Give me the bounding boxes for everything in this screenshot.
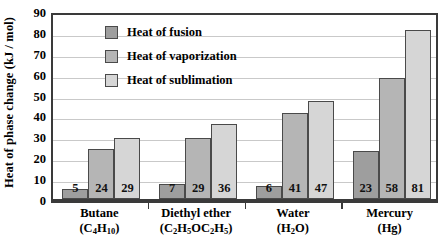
legend-swatch-icon <box>105 50 118 63</box>
bar-value-label: 58 <box>385 182 398 195</box>
x-axis-separator-tick <box>341 201 343 209</box>
bar-water-heat-of-sublimation: 47 <box>308 101 334 199</box>
y-axis-tick-40: 40 <box>34 110 47 125</box>
x-axis-separator-tick <box>148 201 150 209</box>
x-axis-label-formula: (Hg) <box>366 221 413 236</box>
y-axis-title-text: Heat of phase change (kJ / mol) <box>3 17 18 188</box>
y-axis-tick-50: 50 <box>34 89 47 104</box>
x-axis-label-water: Water(H2O) <box>276 206 309 237</box>
y-axis-tick-10: 10 <box>34 173 47 188</box>
legend-item-heat-of-vaporization: Heat of vaporization <box>105 45 305 67</box>
bar-value-label: 41 <box>289 182 302 195</box>
legend-item-label: Heat of fusion <box>127 25 202 40</box>
bar-value-label: 47 <box>315 182 328 195</box>
x-axis-separator-tick <box>245 201 247 209</box>
bar-value-label: 7 <box>169 182 175 195</box>
bar-value-label: 29 <box>121 182 134 195</box>
x-axis-label-formula: (C4H10) <box>79 221 119 236</box>
y-axis-tick-80: 80 <box>34 26 47 41</box>
x-axis-label-name: Water <box>276 206 309 221</box>
y-axis-title: Heat of phase change (kJ / mol) <box>0 0 20 205</box>
legend: Heat of fusionHeat of vaporizationHeat o… <box>105 21 305 93</box>
x-axis-label-name: Diethyl ether <box>160 206 233 221</box>
bar-mercury-heat-of-fusion: 23 <box>353 151 379 199</box>
bar-butane-heat-of-sublimation: 29 <box>114 138 140 199</box>
bar-diethyl-ether-heat-of-sublimation: 36 <box>211 124 237 199</box>
bar-butane-heat-of-fusion: 5 <box>62 189 88 199</box>
legend-swatch-icon <box>105 74 118 87</box>
y-axis-tick-70: 70 <box>34 47 47 62</box>
x-axis-label-butane: Butane(C4H10) <box>79 206 119 237</box>
bar-chart-figure: Heat of phase change (kJ / mol) 90807060… <box>0 0 447 243</box>
legend-item-label: Heat of vaporization <box>127 49 237 64</box>
bar-diethyl-ether-heat-of-vaporization: 29 <box>185 138 211 199</box>
bar-value-label: 23 <box>359 182 372 195</box>
x-axis-label-name: Mercury <box>366 206 413 221</box>
x-axis-label-formula: (C2H5OC2H5) <box>160 221 233 236</box>
bar-mercury-heat-of-sublimation: 81 <box>405 30 431 199</box>
x-axis-label-formula: (H2O) <box>276 221 309 236</box>
y-axis-tick-30: 30 <box>34 131 47 146</box>
x-axis-label-mercury: Mercury(Hg) <box>366 206 413 237</box>
bar-value-label: 6 <box>266 182 272 195</box>
y-axis-tick-0: 0 <box>40 194 46 209</box>
legend-swatch-icon <box>105 26 118 39</box>
y-axis-tick-60: 60 <box>34 68 47 83</box>
bar-butane-heat-of-vaporization: 24 <box>88 149 114 199</box>
x-axis-label-name: Butane <box>79 206 119 221</box>
bar-mercury-heat-of-vaporization: 58 <box>379 78 405 199</box>
x-axis-label-diethyl-ether: Diethyl ether(C2H5OC2H5) <box>160 206 233 237</box>
bar-diethyl-ether-heat-of-fusion: 7 <box>159 184 185 199</box>
y-axis-tick-90: 90 <box>34 6 47 21</box>
bar-value-label: 36 <box>218 182 231 195</box>
bar-water-heat-of-vaporization: 41 <box>282 113 308 199</box>
bar-value-label: 29 <box>192 182 205 195</box>
bar-water-heat-of-fusion: 6 <box>256 186 282 199</box>
y-axis-tick-labels: 9080706050403020100 <box>18 0 50 243</box>
legend-item-heat-of-sublimation: Heat of sublimation <box>105 69 305 91</box>
y-axis-tick-20: 20 <box>34 152 47 167</box>
legend-item-label: Heat of sublimation <box>127 73 233 88</box>
bar-value-label: 5 <box>72 182 78 195</box>
bar-value-label: 81 <box>411 182 424 195</box>
legend-item-heat-of-fusion: Heat of fusion <box>105 21 305 43</box>
bar-value-label: 24 <box>95 182 108 195</box>
